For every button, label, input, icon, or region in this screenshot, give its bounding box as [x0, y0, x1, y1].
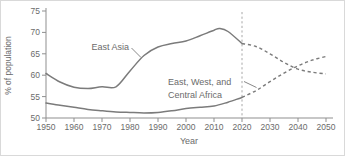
x-tick-label: 2050 — [317, 122, 336, 132]
x-tick-label: 2020 — [233, 122, 252, 132]
x-axis-title: Year — [180, 136, 198, 146]
x-tick-label: 1980 — [121, 122, 140, 132]
x-tick-label: 1990 — [149, 122, 168, 132]
x-tick-label: 2010 — [205, 122, 224, 132]
y-tick-label: 65 — [31, 49, 41, 59]
y-axis-title: % of population — [3, 36, 13, 95]
y-tick-label: 60 — [31, 70, 41, 80]
x-tick-label: 1950 — [37, 122, 56, 132]
series-label-leader-line — [244, 82, 257, 88]
series-label-africa: Central Africa — [168, 90, 222, 100]
y-tick-label: 70 — [31, 27, 41, 37]
series-projection-east-asia — [242, 44, 326, 74]
x-tick-label: 2000 — [177, 122, 196, 132]
series-label-leader-line — [132, 48, 142, 58]
x-tick-label: 2030 — [261, 122, 280, 132]
series-label-africa: East, West, and — [168, 77, 231, 87]
y-tick-label: 75 — [31, 6, 41, 16]
axes-lines — [46, 8, 333, 118]
y-tick-label: 55 — [31, 92, 41, 102]
series-projection-africa — [242, 56, 326, 97]
series-line-africa — [46, 98, 242, 113]
population-line-chart: 5055606570751950196019701980199020002010… — [0, 0, 345, 156]
chart-canvas: 5055606570751950196019701980199020002010… — [1, 1, 344, 155]
series-label-east-asia: East Asia — [91, 42, 129, 52]
x-tick-label: 2040 — [289, 122, 308, 132]
x-tick-label: 1960 — [65, 122, 84, 132]
x-tick-label: 1970 — [93, 122, 112, 132]
